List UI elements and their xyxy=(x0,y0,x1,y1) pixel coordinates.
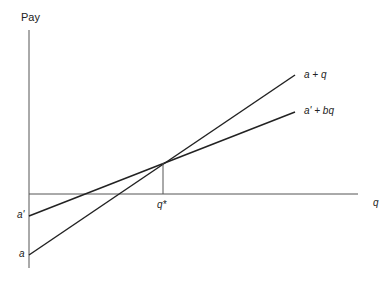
y-axis-label: Pay xyxy=(21,12,40,23)
diagram-canvas xyxy=(0,0,384,281)
x-axis-label: q xyxy=(373,198,379,208)
a-prime-intercept-label: a' xyxy=(17,210,24,220)
line-a-plus-q-label: a + q xyxy=(304,70,327,80)
line-a-plus-q xyxy=(29,75,295,255)
q-star-label: q* xyxy=(157,200,166,210)
line-a-prime-plus-bq-label: a' + bq xyxy=(304,106,334,116)
a-intercept-label: a xyxy=(19,249,25,259)
